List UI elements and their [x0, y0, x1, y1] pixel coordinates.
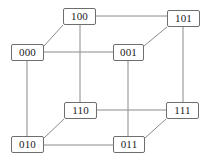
- cube-node-010: 010: [11, 136, 44, 153]
- cube-node-001: 001: [113, 44, 144, 61]
- cube-node-110: 110: [64, 102, 97, 119]
- cube-node-label: 101: [175, 13, 192, 24]
- cube-node-111: 111: [166, 102, 199, 119]
- cube-node-label: 010: [19, 139, 36, 150]
- cube-edge-010-110: [44, 119, 64, 138]
- cube-node-label: 000: [19, 47, 36, 58]
- cube-node-011: 011: [113, 136, 145, 153]
- edges-group: [27, 16, 183, 145]
- cube-edge-001-101: [144, 27, 167, 46]
- cube-node-100: 100: [63, 8, 96, 25]
- cube-node-000: 000: [11, 44, 44, 61]
- cube-node-label: 011: [121, 139, 138, 150]
- cube-edge-011-111: [145, 119, 166, 138]
- cube-node-label: 110: [72, 105, 89, 116]
- cube-node-label: 111: [174, 105, 190, 116]
- cube-node-101: 101: [167, 10, 200, 27]
- cube-node-label: 100: [71, 11, 88, 22]
- cube-node-label: 001: [120, 47, 137, 58]
- hypercube-diagram: 100101000001110111010011: [0, 0, 202, 161]
- cube-edge-000-100: [44, 25, 63, 46]
